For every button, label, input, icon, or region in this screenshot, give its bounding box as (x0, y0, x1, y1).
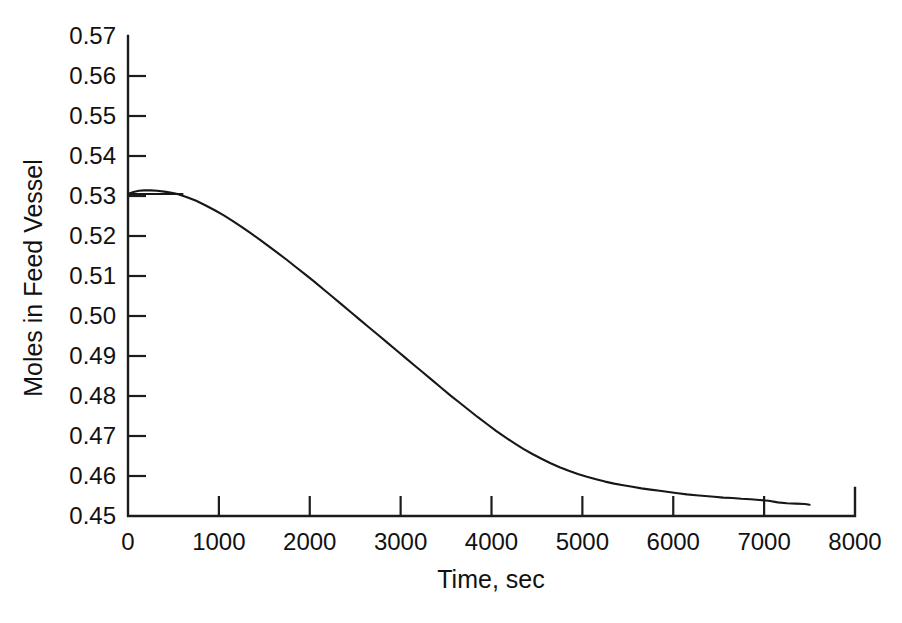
y-tick-label: 0.48 (69, 382, 116, 409)
y-tick-label: 0.47 (69, 422, 116, 449)
x-tick-label: 6000 (647, 528, 700, 555)
y-tick-label: 0.51 (69, 262, 116, 289)
y-tick-label: 0.55 (69, 102, 116, 129)
y-tick-label: 0.56 (69, 62, 116, 89)
y-tick-label: 0.45 (69, 502, 116, 529)
x-tick-label: 7000 (737, 528, 790, 555)
x-tick-label: 4000 (465, 528, 518, 555)
x-tick-label: 1000 (192, 528, 245, 555)
x-axis-title: Time, sec (437, 565, 544, 593)
y-tick-label: 0.57 (69, 22, 116, 49)
line-chart: 0.450.460.470.480.490.500.510.520.530.54… (0, 0, 902, 623)
y-tick-label: 0.52 (69, 222, 116, 249)
x-tick-label: 3000 (374, 528, 427, 555)
y-tick-label: 0.49 (69, 342, 116, 369)
y-tick-label: 0.53 (69, 182, 116, 209)
x-tick-label: 5000 (556, 528, 609, 555)
x-tick-label: 2000 (283, 528, 336, 555)
x-axis-tick-labels: 010002000300040005000600070008000 (121, 528, 881, 555)
y-axis-title: Moles in Feed Vessel (19, 159, 47, 397)
y-tick-label: 0.54 (69, 142, 116, 169)
x-tick-label: 0 (121, 528, 134, 555)
y-tick-label: 0.50 (69, 302, 116, 329)
chart-figure: 0.450.460.470.480.490.500.510.520.530.54… (0, 0, 902, 623)
x-tick-label: 8000 (828, 528, 881, 555)
y-tick-label: 0.46 (69, 462, 116, 489)
